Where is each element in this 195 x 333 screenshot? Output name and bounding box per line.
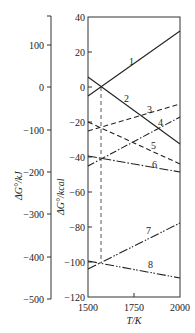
line-labels: 1 2 3 4 5 6 7 8: [124, 56, 163, 270]
kcal-tick-m80: −80: [69, 222, 85, 233]
label-5: 5: [151, 140, 156, 151]
chart: 100 0 −100 −200 −300 −400 −500 ΔG°/kJ ΔG…: [0, 0, 195, 333]
kj-axis-label: ΔG°/kJ: [13, 171, 24, 201]
kj-tick-m400: −400: [23, 252, 44, 263]
kj-axis: 100 0 −100 −200 −300 −400 −500 ΔG°/kJ: [13, 16, 51, 305]
x-tick-1750: 1750: [124, 302, 144, 313]
series-lines: [88, 31, 180, 278]
kcal-axis-label: ΔG°/kcal: [55, 178, 66, 216]
plot-frame: [88, 17, 180, 297]
kcal-tick-20: 20: [75, 47, 85, 58]
kj-tick-m200: −200: [23, 167, 44, 178]
kj-tick-100: 100: [29, 40, 44, 51]
line-2: [88, 77, 180, 144]
label-3: 3: [147, 104, 152, 115]
x-axis-label: T/K: [126, 315, 142, 326]
x-tick-2000: 2000: [170, 302, 190, 313]
kj-tick-m100: −100: [23, 125, 44, 136]
kcal-tick-40: 40: [75, 12, 85, 23]
kcal-tick-m100: −100: [64, 257, 85, 268]
kcal-tick-m60: −60: [69, 187, 85, 198]
x-tick-1500: 1500: [78, 302, 98, 313]
kj-tick-m300: −300: [23, 209, 44, 220]
x-axis: 1500 1750 2000 T/K: [78, 293, 190, 326]
label-8: 8: [148, 259, 153, 270]
line-3: [88, 104, 180, 131]
line-8: [88, 261, 180, 278]
label-4: 4: [158, 117, 163, 128]
kj-tick-0: 0: [39, 82, 44, 93]
kj-tick-m500: −500: [23, 294, 44, 305]
label-1: 1: [129, 56, 134, 67]
line-4: [88, 117, 180, 166]
line-7: [88, 223, 180, 269]
line-5: [88, 122, 180, 164]
label-7: 7: [146, 225, 151, 236]
kcal-tick-m20: −20: [69, 117, 85, 128]
kcal-tick-0: 0: [80, 82, 85, 93]
label-6: 6: [152, 159, 157, 170]
label-2: 2: [124, 93, 129, 104]
kcal-tick-m40: −40: [69, 152, 85, 163]
line-1: [88, 31, 180, 96]
